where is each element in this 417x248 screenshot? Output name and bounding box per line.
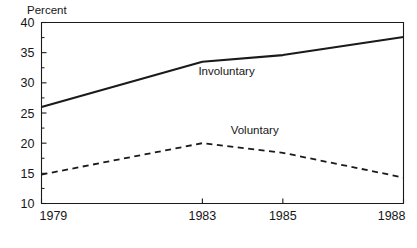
- y-tick-label: 15: [21, 167, 35, 181]
- x-tick-label: 1983: [188, 209, 216, 223]
- series-label-involuntary: Involuntary: [198, 65, 255, 77]
- y-tick-label: 35: [21, 46, 35, 60]
- x-tick-label: 1985: [269, 209, 297, 223]
- y-axis-title: Percent: [27, 4, 67, 16]
- series-label-voluntary: Voluntary: [231, 124, 279, 136]
- y-tick-label: 10: [21, 197, 35, 211]
- line-chart: 40353025201510 1979198319851988 Involunt…: [0, 0, 417, 248]
- x-tick-label: 1979: [40, 209, 68, 223]
- x-tick-label: 1988: [378, 209, 406, 223]
- chart-container: 40353025201510 1979198319851988 Involunt…: [0, 0, 417, 248]
- y-tick-label: 30: [21, 76, 35, 90]
- y-tick-label: 20: [21, 137, 35, 151]
- y-tick-label: 25: [21, 107, 35, 121]
- y-tick-label: 40: [21, 16, 35, 30]
